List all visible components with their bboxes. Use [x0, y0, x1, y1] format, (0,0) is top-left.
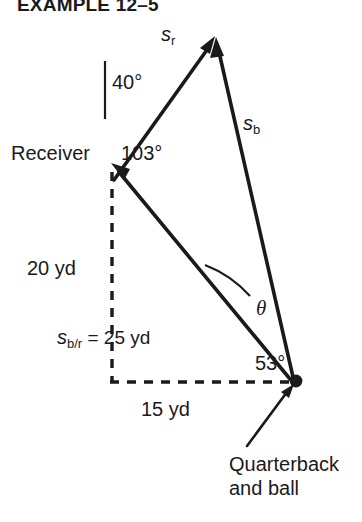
quarterback-leader-arrow	[247, 384, 294, 446]
label-vector-sb-subscript: b	[253, 122, 260, 137]
label-vector-sbr-value: = 25 yd	[82, 327, 150, 348]
label-vector-sbr-subscript: b/r	[67, 336, 82, 351]
figure-title: EXAMPLE 12–5	[17, 0, 159, 14]
label-angle-theta: θ	[256, 298, 266, 319]
label-quarterback: Quarterback and ball	[229, 452, 339, 501]
label-vector-sr-symbol: s	[161, 23, 171, 45]
label-vector-sbr: sb/r = 25 yd	[57, 327, 150, 350]
label-vector-sbr-symbol: s	[57, 326, 67, 348]
label-distance-20yd: 20 yd	[27, 258, 76, 278]
label-angle-40: 40°	[112, 72, 142, 92]
label-quarterback-line2: and ball	[229, 476, 339, 500]
label-angle-103: 103°	[121, 143, 162, 163]
label-quarterback-line1: Quarterback	[229, 452, 339, 476]
label-vector-sr: sr	[161, 24, 175, 47]
quarterback-point	[290, 375, 303, 388]
vector-sb	[210, 37, 293, 377]
label-distance-15yd: 15 yd	[141, 399, 190, 419]
label-receiver: Receiver	[11, 143, 90, 163]
label-vector-sb: sb	[243, 113, 260, 136]
label-angle-53: 53°	[255, 353, 285, 373]
example-figure: EXAMPLE 12–5 sr sb sb/r = 25 yd 40° 103°…	[0, 0, 362, 522]
theta-arc	[205, 265, 250, 296]
label-vector-sr-subscript: r	[171, 33, 175, 48]
label-vector-sb-symbol: s	[243, 112, 253, 134]
